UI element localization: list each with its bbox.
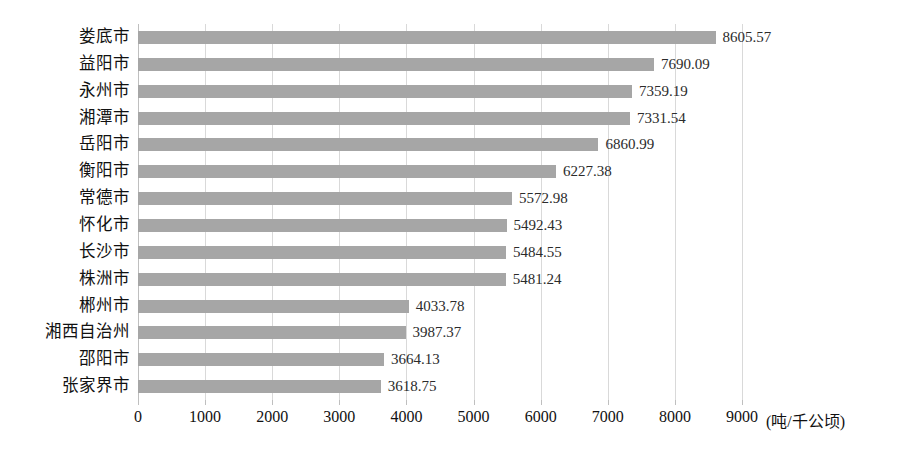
category-label: 郴州市	[0, 293, 130, 320]
x-tick-mark-5000	[474, 400, 475, 405]
bar-value-label: 4033.78	[416, 293, 465, 320]
category-label: 张家界市	[0, 373, 130, 400]
category-label: 岳阳市	[0, 131, 130, 158]
x-axis-unit-label: (吨/千公顷)	[766, 408, 845, 432]
category-label: 长沙市	[0, 239, 130, 266]
x-tick-mark-0	[138, 400, 139, 405]
bar[interactable]	[138, 219, 507, 232]
bar[interactable]	[138, 273, 506, 286]
bar[interactable]	[138, 58, 654, 71]
x-axis: 0100020003000400050006000700080009000(吨/…	[0, 400, 905, 440]
bar-row[interactable]: 5481.24	[138, 266, 742, 293]
bar-row[interactable]: 7331.54	[138, 105, 742, 132]
category-label: 株洲市	[0, 266, 130, 293]
bar-row[interactable]: 6860.99	[138, 131, 742, 158]
bar-row[interactable]: 7690.09	[138, 51, 742, 78]
bar-chart: 8605.577690.097359.197331.546860.996227.…	[0, 0, 905, 465]
x-tick-mark-9000	[742, 400, 743, 405]
x-tick-mark-2000	[272, 400, 273, 405]
x-tick-mark-7000	[608, 400, 609, 405]
bar-row[interactable]: 7359.19	[138, 78, 742, 105]
category-label: 邵阳市	[0, 346, 130, 373]
x-tick-mark-3000	[339, 400, 340, 405]
category-label: 湘潭市	[0, 105, 130, 132]
bar-value-label: 8605.57	[723, 24, 772, 51]
bar[interactable]	[138, 246, 506, 259]
bar-value-label: 6227.38	[563, 158, 612, 185]
category-label: 怀化市	[0, 212, 130, 239]
category-label: 娄底市	[0, 24, 130, 51]
bar-value-label: 7690.09	[661, 51, 710, 78]
bar-value-label: 6860.99	[605, 131, 654, 158]
category-label: 常德市	[0, 185, 130, 212]
bar[interactable]	[138, 300, 409, 313]
bar[interactable]	[138, 112, 630, 125]
x-tick-mark-8000	[675, 400, 676, 405]
bar-value-label: 5481.24	[513, 266, 562, 293]
bar[interactable]	[138, 192, 512, 205]
bar-row[interactable]: 3664.13	[138, 346, 742, 373]
bar-row[interactable]: 8605.57	[138, 24, 742, 51]
bar[interactable]	[138, 353, 384, 366]
bar-value-label: 7331.54	[637, 105, 686, 132]
bar-row[interactable]: 5492.43	[138, 212, 742, 239]
bar-row[interactable]: 3987.37	[138, 319, 742, 346]
plot-area: 8605.577690.097359.197331.546860.996227.…	[138, 24, 742, 400]
bar-value-label: 5492.43	[514, 212, 563, 239]
bar[interactable]	[138, 85, 632, 98]
bar-value-label: 5484.55	[513, 239, 562, 266]
bar-row[interactable]: 5484.55	[138, 239, 742, 266]
bar-value-label: 5572.98	[519, 185, 568, 212]
category-label: 永州市	[0, 78, 130, 105]
bar-row[interactable]: 3618.75	[138, 373, 742, 400]
category-label: 湘西自治州	[0, 319, 130, 346]
bar[interactable]	[138, 31, 716, 44]
category-label: 益阳市	[0, 51, 130, 78]
bar-row[interactable]: 6227.38	[138, 158, 742, 185]
bar[interactable]	[138, 138, 598, 151]
category-label: 衡阳市	[0, 158, 130, 185]
bar[interactable]	[138, 165, 556, 178]
x-tick-mark-1000	[205, 400, 206, 405]
bar-value-label: 3664.13	[391, 346, 440, 373]
bar[interactable]	[138, 380, 381, 393]
bar-row[interactable]: 5572.98	[138, 185, 742, 212]
bar-value-label: 3987.37	[413, 319, 462, 346]
bar[interactable]	[138, 326, 406, 339]
bar-value-label: 7359.19	[639, 78, 688, 105]
bar-row[interactable]: 4033.78	[138, 293, 742, 320]
bar-value-label: 3618.75	[388, 373, 437, 400]
x-tick-mark-6000	[541, 400, 542, 405]
x-tick-mark-4000	[406, 400, 407, 405]
gridline-9000	[742, 24, 743, 400]
